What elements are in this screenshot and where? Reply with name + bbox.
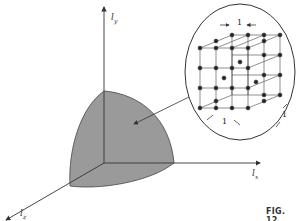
y-axis-label: ly <box>111 12 117 24</box>
y-axis-subscript: y <box>114 17 117 24</box>
x-axis-label: lx <box>252 168 258 180</box>
diagram-svg <box>0 0 299 221</box>
spacing-label-right: 1 <box>282 110 287 119</box>
x-axis-subscript: x <box>255 173 258 180</box>
spacing-label-bottom: 1 <box>222 117 227 126</box>
z-axis-label: lz <box>20 208 26 220</box>
shaded-region <box>70 91 174 187</box>
figure-label: FIG. 12 <box>266 207 299 221</box>
diagram-canvas: ly lx lz 1 1 1 FIG. 12 <box>0 0 299 221</box>
z-axis-subscript: z <box>23 213 26 220</box>
spacing-label-top: 1 <box>237 18 242 27</box>
